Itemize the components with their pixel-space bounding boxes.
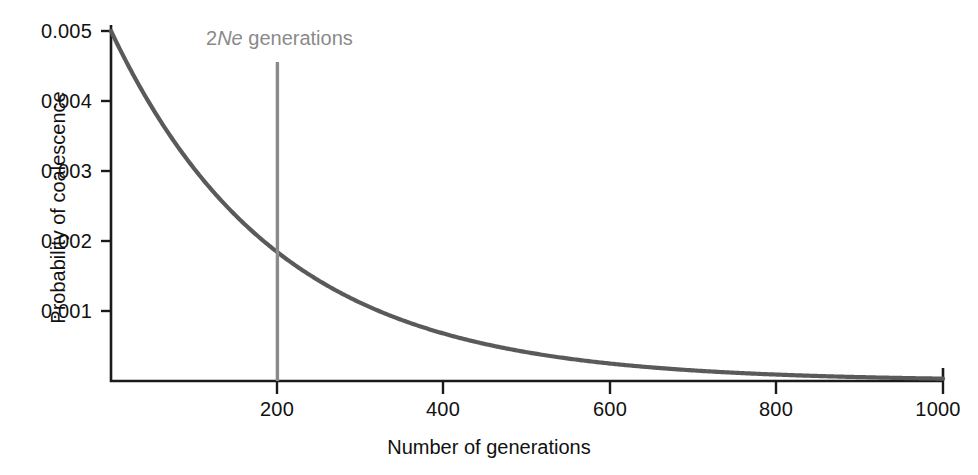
annotation-italic-ne: Ne [217,27,243,49]
annotation-prefix: 2 [206,27,217,49]
annotation-suffix: generations [243,27,353,49]
coalescence-decay-curve [111,31,943,379]
axis-lines [111,25,943,381]
x-axis-ticks [277,381,943,394]
y-axis-title: Probability of coalescence [47,58,70,358]
y-axis-ticks [101,31,111,311]
2ne-generations-annotation: 2Ne generations [206,27,353,50]
y-tick-label-0005: 0.005 [6,20,92,43]
coalescence-probability-chart: 0.005 0.004 0.003 0.002 0.001 200 400 60… [0,0,978,475]
x-tick-label-800: 800 [736,398,816,421]
axis-line [111,25,943,381]
x-tick-label-600: 600 [570,398,650,421]
plot-canvas [0,0,978,475]
x-tick-label-400: 400 [403,398,483,421]
x-axis-title: Number of generations [0,436,978,459]
x-tick-label-1000: 1000 [898,398,978,421]
x-tick-label-200: 200 [237,398,317,421]
